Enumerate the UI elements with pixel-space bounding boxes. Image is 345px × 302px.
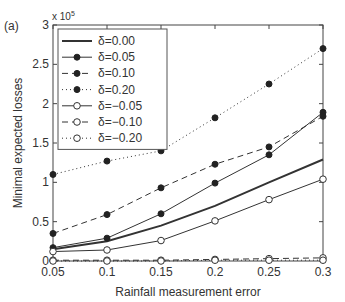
marker-open — [50, 258, 57, 265]
marker-filled — [266, 81, 272, 87]
y-tick-label: 2.5 — [32, 57, 49, 71]
marker-filled — [212, 180, 218, 186]
marker-filled — [74, 54, 80, 60]
series-path — [53, 160, 323, 250]
marker-filled — [104, 158, 110, 164]
y-axis-label: Minimal expected losses — [11, 78, 25, 209]
legend-label: δ=0.10 — [98, 66, 135, 80]
marker-open — [50, 248, 57, 255]
panel-label: (a) — [4, 19, 19, 33]
marker-filled — [320, 46, 326, 52]
legend-label: δ=0.20 — [98, 83, 135, 97]
marker-filled — [266, 144, 272, 150]
x-tick-label: 0.2 — [207, 265, 224, 279]
marker-filled — [50, 230, 56, 236]
marker-filled — [212, 161, 218, 167]
y-tick-label: 2 — [42, 97, 49, 111]
marker-filled — [104, 212, 110, 218]
marker-filled — [266, 152, 272, 158]
legend-label: δ=0.05 — [98, 50, 135, 64]
x-tick-label: 0.15 — [149, 265, 173, 279]
marker-filled — [50, 171, 56, 177]
y-tick-label: 0 — [42, 254, 49, 268]
marker-filled — [212, 115, 218, 121]
x-tick-label: 0.1 — [99, 265, 116, 279]
marker-filled — [158, 185, 164, 191]
y-multiplier: x 105 — [52, 10, 75, 22]
legend-label: δ=−0.05 — [98, 99, 142, 113]
y-tick-label: 1 — [42, 175, 49, 189]
marker-open — [74, 135, 81, 142]
y-tick-label: 3 — [42, 18, 49, 32]
x-axis-label: Rainfall measurement error — [115, 285, 260, 299]
marker-filled — [104, 235, 110, 241]
legend-label: δ=0.00 — [98, 34, 135, 48]
series-line — [53, 160, 323, 250]
marker-open — [266, 257, 273, 264]
marker-open — [104, 247, 111, 254]
marker-open — [320, 176, 327, 183]
marker-open — [158, 258, 165, 265]
marker-open — [74, 103, 81, 110]
series-line — [50, 255, 327, 264]
legend-label: δ=−0.10 — [98, 115, 142, 129]
marker-open — [104, 258, 111, 265]
marker-open — [74, 119, 81, 126]
x-tick-label: 0.3 — [315, 265, 332, 279]
marker-filled — [158, 211, 164, 217]
y-tick-label: 0.5 — [32, 215, 49, 229]
marker-open — [212, 257, 219, 264]
marker-filled — [320, 113, 326, 119]
marker-open — [212, 218, 219, 225]
x-tick-label: 0.25 — [257, 265, 281, 279]
marker-open — [320, 257, 327, 264]
y-tick-label: 1.5 — [32, 136, 49, 150]
line-chart: 0.050.10.150.20.250.300.511.522.53 δ=0.0… — [0, 0, 345, 302]
marker-open — [158, 237, 165, 244]
marker-filled — [74, 87, 80, 93]
series-path — [53, 258, 323, 260]
legend-label: δ=−0.20 — [98, 131, 142, 145]
marker-open — [266, 196, 273, 203]
marker-filled — [74, 70, 80, 76]
legend: δ=0.00δ=0.05δ=0.10δ=0.20δ=−0.05δ=−0.10δ=… — [58, 29, 167, 149]
